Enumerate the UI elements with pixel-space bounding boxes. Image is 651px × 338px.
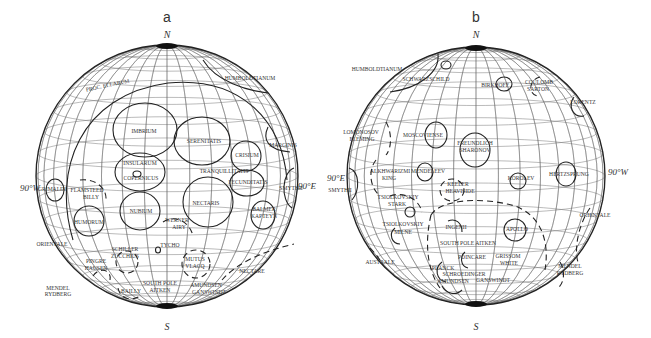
- north-label-a: N: [163, 29, 172, 40]
- basin-label: TSIOLKOVSKIY: [382, 221, 423, 227]
- basin-label: INSULARUM: [123, 160, 156, 166]
- basin-label: CRISIUM: [235, 152, 258, 158]
- basin-label: MARGINIS: [269, 142, 297, 148]
- basin-label: HUMORUM: [74, 219, 104, 225]
- basin-label: LORENTZ: [570, 99, 596, 105]
- basin-label: POINCARE: [458, 254, 487, 260]
- basin-label: FECUNDITATIS: [228, 179, 267, 185]
- schwarzschild-outline: [441, 61, 451, 69]
- basin-label: BAILLY: [121, 288, 141, 294]
- basin-label: BALMER: [252, 206, 276, 212]
- basin-label: BILLY: [83, 194, 99, 200]
- basin-label: AIRY: [172, 224, 185, 230]
- basin-label: COULOMB: [525, 79, 553, 85]
- basin-label: INGENII: [445, 224, 466, 230]
- north-label-b: N: [472, 29, 481, 40]
- basin-label: SMYTHII: [279, 185, 302, 191]
- basin-label: AMUNDSEN: [437, 278, 469, 284]
- basin-label: PINGRE: [86, 258, 107, 264]
- basin-label: SHARONOV: [459, 147, 490, 153]
- basin-label: SCHILLER: [112, 246, 139, 252]
- basin-label: KOROLEV: [508, 175, 535, 181]
- basin-label: APOLLO: [506, 226, 528, 232]
- basin-label: IMBRIUM: [131, 128, 156, 134]
- basin-label: HERTZSPRUNG: [549, 171, 589, 177]
- basin-label: MUTUS: [185, 256, 205, 262]
- basin-label: MENDELEEV: [411, 168, 445, 174]
- basin-label: GANSWINDT: [476, 277, 510, 283]
- basin-label: RYDBERG: [557, 270, 583, 276]
- basin-label: ZUCCHIUS: [111, 253, 139, 259]
- basin-label: SMYTHII: [328, 187, 351, 193]
- basin-label: SERENITATIS: [187, 138, 221, 144]
- south-label-a: S: [165, 321, 170, 332]
- basin-label: AITKEN: [150, 287, 171, 293]
- basin-label: SOUTH POLE: [143, 280, 178, 286]
- basin-label: TSIOLKOVSKIY: [377, 194, 418, 200]
- basin-label: GANSWINDT: [192, 289, 226, 295]
- basin-label: FLAMSTEED: [71, 187, 104, 193]
- basin-label: HAUSEN: [85, 265, 108, 271]
- basin-label: WHITE: [500, 260, 519, 266]
- north-pole-marker-a: [156, 43, 178, 49]
- basin-label: NECTARIS: [193, 200, 220, 206]
- basin-label: TRANQUILLITATIS: [200, 168, 249, 174]
- south-pole-marker-b: [465, 301, 487, 307]
- basin-label: KAPTEYN: [251, 213, 277, 219]
- basin-label: SCHWARZSCHILD: [403, 76, 450, 82]
- basin-label: KING: [382, 175, 396, 181]
- basin-label: MOSCOVIENSE: [403, 132, 443, 138]
- basin-label: GRISSOM: [496, 253, 521, 259]
- basin-label: MILNE: [394, 229, 412, 235]
- lomonosov-fleming-outline: [386, 122, 391, 155]
- basin-label: BIRKHOFF: [481, 82, 509, 88]
- basin-label: SOUTH POLE AITKEN: [440, 240, 496, 246]
- south-label-b: S: [474, 321, 479, 332]
- basin-label: AUSTRALE: [365, 259, 395, 265]
- basin-label: MENDEL: [558, 263, 582, 269]
- lunar-basin-maps-figure: a N S 90°W 90°E: [0, 0, 651, 338]
- basin-label: STARK: [388, 201, 406, 207]
- basin-label: TYCHO: [160, 242, 179, 248]
- south-pole-marker-a: [156, 303, 178, 309]
- south-pole-aitken-outline: [431, 200, 546, 270]
- basin-label: HUMBOLDTIANUM: [225, 75, 276, 81]
- panel-label-b: b: [472, 9, 480, 25]
- north-pole-marker-b: [465, 45, 487, 51]
- basin-label: KEELER: [447, 181, 469, 187]
- basin-label: FREUNDLICH: [457, 140, 492, 146]
- panel-label-a: a: [163, 9, 171, 25]
- basin-label: FLEMING: [350, 136, 375, 142]
- basin-label: COPERNICUS: [124, 175, 159, 181]
- basin-label: ORIENTALE: [37, 241, 69, 247]
- basin-label: GRIMALDI: [38, 186, 66, 192]
- west-label-b: 90°W: [608, 167, 630, 177]
- basin-label: NECTARE: [239, 268, 265, 274]
- east-label-b: 90°E: [327, 173, 346, 183]
- basin-label: ALKHWARIZMI: [370, 168, 410, 174]
- basin-label: HEAVISIDE: [445, 188, 475, 194]
- basin-label: ORIENTALE: [580, 212, 612, 218]
- basin-label: NUBIUM: [130, 208, 153, 214]
- basin-label: LOMONOSOV: [343, 129, 379, 135]
- basin-label: SARTON: [527, 86, 549, 92]
- tsiolkovskiy-outline: [405, 207, 415, 217]
- basin-label: AMUNDSEN: [190, 282, 222, 288]
- basin-label: HUMBOLDTIANUM: [352, 66, 403, 72]
- basin-label: RYDBERG: [45, 291, 71, 297]
- basin-label: WERNER: [165, 217, 189, 223]
- basin-label: VLACQ: [185, 263, 204, 269]
